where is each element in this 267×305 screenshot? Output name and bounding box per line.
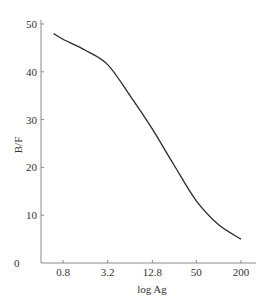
x-axis-label: log Ag [137,283,167,295]
x-tick-label: 3.2 [101,266,115,278]
y-tick-label: 10 [26,209,38,221]
y-axis-label: B/F [12,137,24,154]
x-tick-label: 0.8 [56,266,70,278]
y-tick-label: 40 [26,66,38,78]
y-tick-label: 50 [26,18,38,30]
chart-canvas: 01020304050 0.83.212.850200 B/F log Ag [0,0,267,305]
y-tick-label: 0 [14,257,20,269]
x-tick-label: 12.8 [143,266,163,278]
y-tick-label: 30 [26,114,38,126]
data-curve [54,34,241,240]
y-tick-label: 20 [26,161,38,173]
x-tick-label: 200 [233,266,250,278]
x-axis: 0.83.212.850200 [41,260,256,278]
x-tick-label: 50 [191,266,203,278]
